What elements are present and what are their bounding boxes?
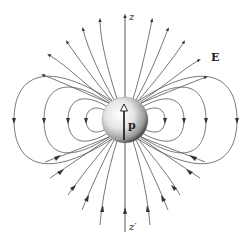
arrow-down-icon [163, 118, 167, 124]
field-line [45, 137, 109, 162]
arrow-up-icon [123, 207, 127, 214]
arrow-down-icon [42, 118, 46, 124]
field-label-E: E [211, 51, 219, 64]
field-loop [142, 99, 184, 141]
arrow-down-icon [235, 118, 239, 124]
dipole-moment-label: p [128, 119, 136, 132]
field-line [83, 29, 114, 100]
arrow-up-icon [70, 185, 76, 191]
arrow-up-icon [54, 155, 61, 161]
arrow-up-icon [57, 169, 64, 175]
loop-arrows-right [163, 118, 239, 124]
dipole-sphere [102, 97, 148, 143]
arrow-up-icon [161, 195, 166, 202]
closed-loops-left [14, 76, 112, 164]
closed-loops-right [138, 76, 237, 164]
field-loop [138, 76, 237, 164]
field-loop [44, 87, 110, 153]
field-line [141, 77, 206, 103]
loop-arrows-left [12, 118, 88, 124]
field-loop [14, 76, 112, 164]
field-line [49, 55, 110, 102]
arrow-down-icon [182, 118, 186, 124]
arrow-up-icon [189, 155, 197, 161]
arrow-down-icon [12, 118, 16, 124]
field-line [43, 75, 109, 103]
z-prime-axis-label: z′ [128, 221, 137, 232]
arrow-up-icon [186, 169, 193, 175]
field-line [100, 141, 117, 225]
arrow-down-icon [66, 118, 70, 124]
arrow-up-icon [84, 195, 89, 202]
dipole-field-diagram: z z′ E p [0, 0, 250, 240]
field-line [100, 20, 117, 99]
field-loop [140, 87, 206, 153]
field-line [136, 29, 168, 100]
field-line [140, 60, 199, 102]
arrow-down-icon [204, 118, 208, 124]
arrow-down-icon [84, 118, 88, 124]
z-axis-label: z [128, 11, 135, 22]
field-line [133, 141, 150, 225]
open-lines-top [43, 20, 206, 103]
